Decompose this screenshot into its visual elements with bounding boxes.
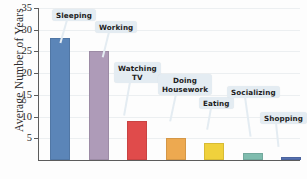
callout-1: Sleeping (52, 9, 96, 21)
y-axis-tick (34, 8, 38, 9)
x-axis-line (38, 160, 300, 161)
callout-5: Eating (199, 97, 234, 109)
callout-3: Watching TV (114, 62, 161, 83)
y-axis-tick (34, 95, 38, 96)
bar (204, 143, 224, 160)
y-axis-tick (34, 138, 38, 139)
bar (243, 153, 263, 160)
y-axis-tick-label: 15 (22, 90, 33, 101)
bar (281, 157, 301, 160)
y-axis-tick (34, 30, 38, 31)
bar (89, 51, 109, 160)
y-axis-tick-label: 35 (22, 3, 33, 14)
y-axis-tick-label: 25 (22, 46, 33, 57)
bar (166, 138, 186, 160)
bar (50, 38, 70, 160)
y-axis-tick-label: 20 (22, 68, 33, 79)
callout-7: Shopping (260, 112, 307, 124)
callout-4: Doing Housework (158, 74, 212, 95)
callout-6: Socializing (227, 86, 280, 98)
y-axis-tick (34, 117, 38, 118)
bar (127, 121, 147, 160)
cropped-title (40, 0, 300, 1)
bar-chart: Average Number of Years 5101520253035 Sl… (0, 0, 307, 179)
y-axis-tick-label: 30 (22, 24, 33, 35)
y-axis-tick-label: 5 (27, 133, 32, 144)
callout-2: Working (95, 21, 137, 33)
y-axis-tick (34, 73, 38, 74)
y-axis-tick-label: 10 (22, 111, 33, 122)
y-axis-tick (34, 51, 38, 52)
